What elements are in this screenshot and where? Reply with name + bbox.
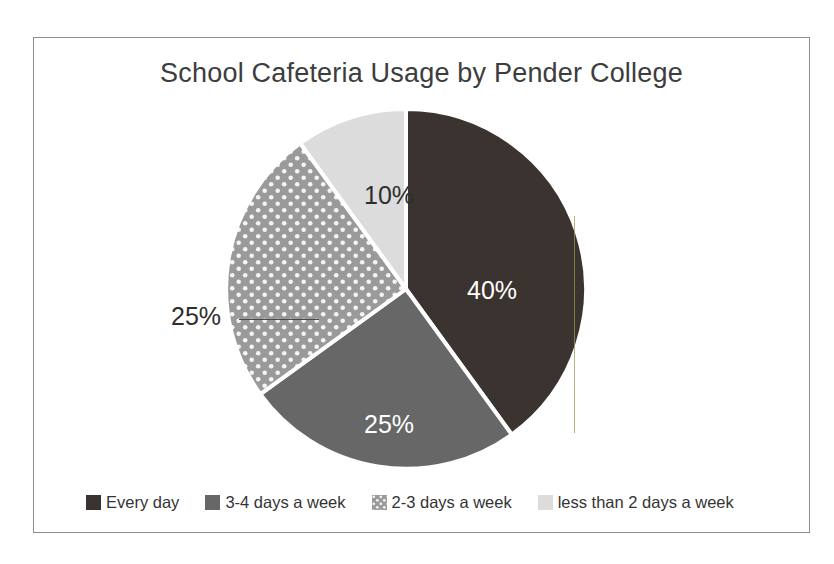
- chart-frame: School Cafeteria Usage by Pender College: [33, 37, 810, 533]
- legend-swatch-2-3-days: [372, 495, 387, 510]
- pie-chart-svg: [34, 38, 811, 534]
- pie-label-leader-line: [239, 319, 319, 320]
- chart-legend: Every day 3-4 days a week 2-3 days a wee…: [86, 493, 786, 512]
- legend-item-2-3-days[interactable]: 2-3 days a week: [372, 493, 512, 512]
- legend-label-every-day: Every day: [106, 493, 179, 512]
- legend-item-every-day[interactable]: Every day: [86, 493, 179, 512]
- legend-swatch-3-4-days: [205, 495, 220, 510]
- legend-swatch-every-day: [86, 495, 101, 510]
- legend-label-2-3-days: 2-3 days a week: [392, 493, 512, 512]
- legend-swatch-less-than-2-days: [538, 495, 553, 510]
- legend-item-less-than-2-days[interactable]: less than 2 days a week: [538, 493, 734, 512]
- legend-item-3-4-days[interactable]: 3-4 days a week: [205, 493, 345, 512]
- legend-label-3-4-days: 3-4 days a week: [225, 493, 345, 512]
- scan-line-artifact: [574, 216, 575, 433]
- pie-chart: 40% 25% 25% 10%: [34, 38, 809, 532]
- legend-swatch-2-3-days-pattern: [372, 495, 387, 510]
- legend-label-less-than-2-days: less than 2 days a week: [558, 493, 734, 512]
